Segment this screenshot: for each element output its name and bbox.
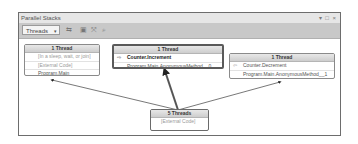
node-header: 1 Thread	[25, 45, 99, 53]
frame-label: Program.Main.AnonymousMethod__1	[243, 71, 327, 77]
stack-frame[interactable]: Program.Main.AnonymousMethod__0	[114, 63, 222, 70]
frame-label: [External Code]	[38, 62, 72, 68]
stack-node-right[interactable]: 1 Thread ⇦ Counter.Decrement Program.Mai…	[229, 53, 335, 79]
frame-label: Program.Main	[38, 70, 69, 76]
frame-label: Program.Main.AnonymousMethod__0	[127, 63, 211, 69]
node-header: 5 Threads	[151, 110, 208, 118]
stack-frame[interactable]: [External Code]	[25, 62, 99, 71]
stack-frame[interactable]: Program.Main.AnonymousMethod__1	[230, 71, 334, 79]
frame-label: [External Code]	[161, 118, 195, 124]
node-header: 1 Thread	[230, 54, 334, 62]
stack-node-bottom[interactable]: 5 Threads [External Code]	[150, 109, 209, 131]
stack-frame[interactable]: [External Code]	[151, 118, 208, 126]
stack-node-left[interactable]: 1 Thread [In a sleep, wait, or join] [Ex…	[24, 44, 100, 76]
stack-frame[interactable]: ⇨ Counter.Increment	[114, 54, 222, 63]
current-frame-arrow-icon: ⇨	[117, 54, 121, 62]
frame-label: Counter.Decrement	[243, 62, 286, 68]
stack-frame[interactable]: ⇦ Counter.Decrement	[230, 62, 334, 71]
stack-frame[interactable]: Program.Main	[25, 70, 99, 76]
stack-node-middle[interactable]: 1 Thread ⇨ Counter.Increment Program.Mai…	[112, 44, 224, 69]
frame-label: [In a sleep, wait, or join]	[38, 53, 91, 59]
node-header: 1 Thread	[114, 46, 222, 54]
stack-frame[interactable]: [In a sleep, wait, or join]	[25, 53, 99, 62]
thread-arrow-icon: ⇦	[233, 62, 237, 70]
frame-label: Counter.Increment	[127, 54, 171, 60]
